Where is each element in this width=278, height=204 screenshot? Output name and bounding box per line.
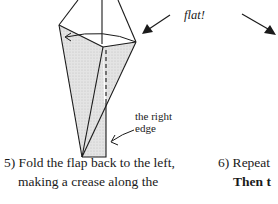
edge-pointer-arrowhead <box>111 135 118 145</box>
step-5-caption: 5) Fold the flap back to the left, makin… <box>4 153 175 191</box>
flat-arrow-left <box>149 15 170 29</box>
step-6-line1: 6) Repeat <box>218 153 271 172</box>
step-5-line2: making a crease along the <box>4 172 175 191</box>
flat-arrow-right <box>242 14 268 29</box>
right-edge-label-line2: edge <box>135 122 172 134</box>
edge-pointer-arrow <box>112 130 134 141</box>
step-6-caption: 6) Repeat Then t <box>218 153 271 191</box>
flat-annotation: flat! <box>184 8 205 23</box>
upper-right-edge <box>118 0 136 42</box>
right-edge-annotation: the right edge <box>135 110 172 134</box>
right-edge-label-line1: the right <box>135 110 172 122</box>
upper-left-edge <box>59 0 78 25</box>
shaded-flap-right <box>103 42 136 103</box>
step-5-line1: 5) Fold the flap back to the left, <box>4 153 175 172</box>
flat-arrowhead-left <box>142 24 153 34</box>
step-6-line2: Then t <box>218 172 271 191</box>
flat-arrowhead-right <box>264 25 276 35</box>
